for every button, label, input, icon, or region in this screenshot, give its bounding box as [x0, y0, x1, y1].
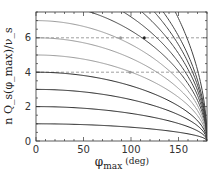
marker-dot — [143, 36, 146, 39]
y-axis-label: n Q_s(φ_max)/ν_s — [2, 27, 15, 125]
curve-n3 — [36, 89, 207, 141]
curve-n11 — [36, 0, 207, 141]
y-tick-label: 2 — [25, 101, 31, 112]
x-tick-label: 150 — [169, 144, 188, 155]
curve-n1 — [36, 124, 207, 141]
plot-area — [36, 0, 207, 141]
x-tick-label: 0 — [33, 144, 39, 155]
chart: 0501001500246 φmax(deg) n Q_s(φ_max)/ν_s — [0, 0, 217, 176]
axes: 0501001500246 — [25, 12, 207, 155]
x-axis-label: φmax(deg) — [95, 155, 149, 171]
y-tick-label: 6 — [25, 32, 31, 43]
y-tick-label: 0 — [25, 136, 31, 147]
marker-dot — [119, 36, 122, 39]
curve-n9 — [36, 0, 207, 141]
x-label-sub: max — [103, 161, 122, 171]
x-tick-label: 100 — [121, 144, 140, 155]
curve-n12 — [36, 0, 207, 141]
curve-n10 — [36, 0, 207, 141]
y-tick-label: 4 — [25, 67, 31, 78]
x-label-main: φ — [95, 155, 103, 169]
plot-frame — [36, 12, 207, 141]
x-tick-label: 50 — [77, 144, 90, 155]
marker-dot — [129, 71, 132, 74]
curve-n6 — [36, 38, 207, 141]
x-label-unit: (deg) — [125, 156, 149, 166]
curve-n14 — [36, 0, 207, 141]
